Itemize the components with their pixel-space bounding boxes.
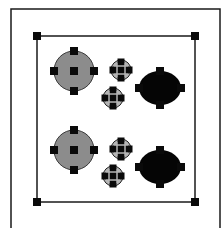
handle-bottom[interactable]: [110, 103, 117, 110]
handle-bottom[interactable]: [70, 87, 78, 95]
handle-left[interactable]: [110, 67, 117, 74]
black-oval-3[interactable]: [135, 67, 185, 109]
handle-left[interactable]: [135, 84, 143, 92]
handle-left[interactable]: [102, 173, 109, 180]
small-crosshair-circle-5[interactable]: [110, 138, 133, 161]
handle-right[interactable]: [126, 67, 133, 74]
handle-right[interactable]: [90, 67, 98, 75]
handle-right[interactable]: [126, 146, 133, 153]
handle-top[interactable]: [156, 146, 164, 154]
resize-handle-top-left[interactable]: [33, 32, 41, 40]
resize-handle-top-right[interactable]: [191, 32, 199, 40]
handle-top[interactable]: [70, 126, 78, 134]
handle-left[interactable]: [135, 163, 143, 171]
handle-top[interactable]: [118, 59, 125, 66]
handle-bottom[interactable]: [70, 166, 78, 174]
handle-right[interactable]: [177, 84, 185, 92]
handle-bottom[interactable]: [156, 180, 164, 188]
small-crosshair-circle-1[interactable]: [110, 59, 133, 82]
center-handle[interactable]: [110, 95, 117, 102]
center-handle[interactable]: [110, 173, 117, 180]
handle-left[interactable]: [50, 67, 58, 75]
handle-bottom[interactable]: [156, 101, 164, 109]
handle-bottom[interactable]: [110, 181, 117, 188]
center-handle[interactable]: [118, 67, 125, 74]
handle-left[interactable]: [50, 146, 58, 154]
center-handle[interactable]: [70, 67, 78, 75]
handle-left[interactable]: [110, 146, 117, 153]
handle-top[interactable]: [110, 87, 117, 94]
resize-handle-bottom-left[interactable]: [33, 198, 41, 206]
outer-frame: [11, 9, 220, 228]
handle-right[interactable]: [90, 146, 98, 154]
handle-right[interactable]: [118, 95, 125, 102]
handle-top[interactable]: [118, 138, 125, 145]
handle-right[interactable]: [118, 173, 125, 180]
gray-circle-4[interactable]: [50, 126, 98, 174]
small-crosshair-circle-6[interactable]: [102, 165, 125, 188]
black-oval-shape: [139, 150, 181, 184]
black-oval-shape: [139, 71, 181, 105]
handle-right[interactable]: [177, 163, 185, 171]
center-handle[interactable]: [70, 146, 78, 154]
center-handle[interactable]: [118, 146, 125, 153]
handle-top[interactable]: [70, 47, 78, 55]
handle-bottom[interactable]: [118, 154, 125, 161]
small-crosshair-circle-2[interactable]: [102, 87, 125, 110]
shape-objects: [50, 47, 185, 188]
resize-handle-bottom-right[interactable]: [191, 198, 199, 206]
handle-top[interactable]: [156, 67, 164, 75]
gray-circle-0[interactable]: [50, 47, 98, 95]
handle-left[interactable]: [102, 95, 109, 102]
handle-bottom[interactable]: [118, 75, 125, 82]
black-oval-7[interactable]: [135, 146, 185, 188]
diagram-canvas: [0, 0, 221, 228]
handle-top[interactable]: [110, 165, 117, 172]
